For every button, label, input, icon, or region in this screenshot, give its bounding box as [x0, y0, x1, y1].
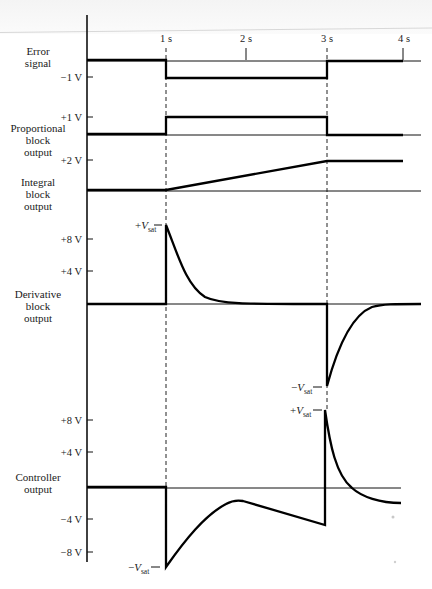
scan-speck	[394, 561, 396, 563]
panel-label: block	[26, 300, 51, 312]
panel-label: block	[26, 134, 51, 146]
panel-label: Derivative	[15, 288, 62, 300]
panel-label: Integral	[21, 176, 55, 188]
panel-label: output	[24, 312, 52, 324]
panel-label: block	[26, 188, 51, 200]
y-tick-label: +2 V	[61, 155, 83, 166]
panel-label: output	[24, 146, 52, 158]
y-tick-label: +4 V	[61, 447, 83, 458]
y-tick-label: −4 V	[61, 514, 83, 525]
time-tick-label-4s: 4 s	[398, 33, 410, 44]
time-tick-label-2s: 2 s	[240, 33, 252, 44]
panel-label: output	[24, 483, 52, 495]
annotation-plus-vsat: +Vsat	[135, 219, 157, 234]
panel-label: output	[24, 200, 52, 212]
y-tick-label: −1 V	[61, 72, 83, 83]
panel-label: Error	[26, 45, 50, 57]
panel-label: signal	[25, 57, 51, 69]
integral-output-trace	[87, 161, 403, 190]
proportional-output-trace	[87, 117, 403, 135]
error-signal-trace	[87, 60, 403, 78]
panel-label: Controller	[15, 471, 61, 483]
panel-derivative-output: +Vsat +8 V +4 V Derivative block output …	[15, 219, 421, 396]
scan-speck	[392, 516, 395, 519]
pid-timing-figure: 1 s 2 s 3 s 4 s Error signal −1 V +1 V P…	[0, 0, 432, 589]
derivative-output-trace	[87, 225, 421, 386]
annotation-minus-vsat: −Vsat	[128, 561, 150, 576]
y-tick-label: +8 V	[61, 234, 83, 245]
time-tick-label-3s: 3 s	[321, 33, 333, 44]
y-tick-label: +4 V	[61, 266, 83, 277]
annotation-plus-vsat: +Vsat	[290, 404, 312, 419]
panel-integral-output: +2 V Integral block output	[21, 155, 421, 212]
panel-controller-output: +Vsat +8 V +4 V Controller output −4 V −…	[15, 404, 401, 576]
panel-label: Proportional	[11, 122, 66, 134]
time-axis: 1 s 2 s 3 s 4 s	[160, 33, 410, 60]
panel-proportional-output: +1 V Proportional block output	[11, 112, 422, 158]
panel-error-signal: Error signal −1 V	[25, 45, 421, 83]
y-tick-label: +8 V	[61, 415, 83, 426]
annotation-minus-vsat: −Vsat	[291, 381, 313, 396]
time-tick-label-1s: 1 s	[160, 33, 172, 44]
y-tick-label: −8 V	[61, 547, 83, 558]
